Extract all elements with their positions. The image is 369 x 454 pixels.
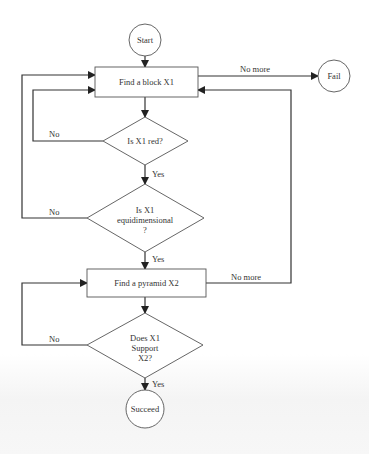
fail-node-label: Fail <box>314 71 354 81</box>
edge-label-red-yes: Yes <box>152 170 164 179</box>
start-node-label: Start <box>125 35 165 45</box>
edge-label-support-yes: Yes <box>152 380 164 389</box>
edge-label-block-no-more: No more <box>240 65 270 74</box>
edge-pyramid-no-more <box>198 90 291 283</box>
supports-node-line2: Support <box>105 343 185 353</box>
succeed-node-label: Succeed <box>120 404 170 414</box>
edge-is-red-no <box>33 90 103 141</box>
supports-node-line3: X2? <box>105 353 185 363</box>
edge-label-equi-yes: Yes <box>152 255 164 264</box>
edge-label-pyramid-no-more: No more <box>231 273 261 282</box>
supports-node-line1: Does X1 <box>105 333 185 343</box>
find-pyramid-node-label: Find a pyramid X2 <box>87 278 206 288</box>
is-equi-node-line1: Is X1 <box>95 205 195 215</box>
find-block-node-label: Find a block X1 <box>95 77 198 87</box>
edge-label-support-no: No <box>49 335 59 344</box>
is-red-node-label: Is X1 red? <box>105 136 185 146</box>
edge-label-equi-no: No <box>49 208 59 217</box>
is-equi-node-line2: equidimensional <box>95 215 195 225</box>
is-equi-node-line3: ? <box>95 225 195 235</box>
edge-label-red-no: No <box>49 130 59 139</box>
